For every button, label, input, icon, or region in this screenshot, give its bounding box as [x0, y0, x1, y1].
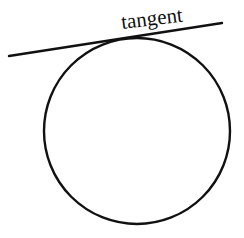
- circle: [44, 38, 230, 224]
- diagram-canvas: tangent: [0, 0, 244, 238]
- tangent-line: [9, 23, 222, 56]
- tangent-diagram: tangent: [0, 0, 244, 238]
